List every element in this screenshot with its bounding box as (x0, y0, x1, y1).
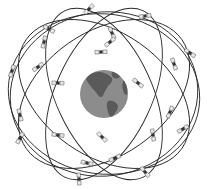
satellite-icon (95, 50, 107, 54)
satellite-icon (139, 13, 151, 18)
satellite-icon (81, 160, 93, 166)
satellite-icon (170, 58, 177, 71)
gps-constellation-diagram (0, 0, 207, 189)
satellite-icon (150, 129, 155, 141)
satellite-icon (104, 37, 116, 47)
satellite-icon (96, 132, 107, 143)
satellite-icon (17, 109, 23, 122)
satellite-icon (77, 173, 81, 185)
earth-globe-icon (80, 70, 128, 118)
satellite-icon (8, 65, 15, 78)
constellation-canvas (0, 0, 207, 189)
satellite-icon (132, 78, 144, 88)
satellite-icon (52, 81, 64, 85)
